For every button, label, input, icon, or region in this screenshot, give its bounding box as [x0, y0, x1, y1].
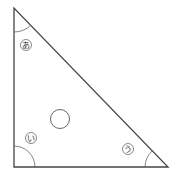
center-circle: [51, 110, 70, 129]
svg-text:う: う: [124, 145, 132, 154]
angle-arc-bottom-right: [145, 151, 152, 167]
triangle-diagram: あ い う: [0, 0, 184, 179]
svg-text:い: い: [27, 134, 35, 143]
label-i: い: [26, 133, 37, 144]
svg-text:あ: あ: [22, 41, 30, 50]
label-a: あ: [21, 40, 32, 51]
angle-arc-top: [14, 25, 31, 32]
label-u: う: [123, 144, 134, 155]
angle-arc-bottom-left: [14, 146, 35, 167]
triangle: [14, 8, 168, 167]
